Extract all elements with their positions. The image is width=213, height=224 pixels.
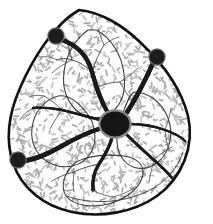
attachment-node-lower-left — [10, 152, 25, 167]
organ-diagram-svg — [0, 0, 213, 224]
hilum-vascular-hub — [98, 109, 131, 138]
hilum-hub-core — [101, 112, 130, 137]
figure-container — [0, 0, 213, 224]
attachment-node-upper-left — [48, 28, 63, 43]
attachment-node-upper-right — [149, 49, 164, 64]
